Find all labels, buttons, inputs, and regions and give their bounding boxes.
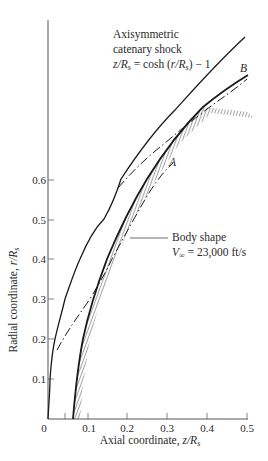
- axes: [48, 20, 248, 419]
- y-axis-label: Radial coordinate, r/Rs: [7, 247, 21, 352]
- y-tick-labels: 0.1 0.2 0.3 0.4 0.5 0.6: [32, 174, 46, 385]
- x-axis-label: Axial coordinate, z/Rs: [100, 434, 201, 448]
- y-tick-0.3: 0.3: [32, 293, 46, 305]
- y-tick-0.4: 0.4: [32, 253, 46, 265]
- svg-text:z/Rs = cosh (r/Rs) − 1: z/Rs = cosh (r/Rs) − 1: [112, 58, 211, 72]
- svg-text:V∞ = 23,000 ft/s: V∞ = 23,000 ft/s: [172, 246, 247, 260]
- x-ticks: [65, 413, 247, 419]
- y-tick-0.6: 0.6: [32, 174, 46, 186]
- x-tick-0.4: 0.4: [200, 422, 214, 434]
- body-annotation: Body shape V∞ = 23,000 ft/s: [172, 231, 247, 260]
- x-tick-0.5: 0.5: [240, 422, 254, 434]
- label-A: A: [168, 156, 177, 168]
- x-tick-0: 0: [41, 422, 47, 434]
- chart: 0 0.1 0.2 0.3 0.4 0.5 0.1 0.2 0.3 0.4 0.…: [0, 0, 268, 461]
- svg-text:catenary shock: catenary shock: [113, 43, 182, 56]
- x-tick-0.3: 0.3: [160, 422, 174, 434]
- x-tick-0.1: 0.1: [82, 422, 96, 434]
- svg-text:Body shape: Body shape: [172, 231, 226, 244]
- y-tick-0.5: 0.5: [32, 214, 46, 226]
- shock-annotation: Axisymmetric catenary shock z/Rs = cosh …: [112, 28, 211, 72]
- y-tick-0.1: 0.1: [32, 373, 46, 385]
- y-tick-0.2: 0.2: [32, 333, 46, 345]
- body-hatching: [60, 100, 260, 420]
- x-tick-0.2: 0.2: [120, 422, 134, 434]
- svg-text:Axisymmetric: Axisymmetric: [113, 28, 179, 41]
- label-B: B: [240, 62, 247, 74]
- x-tick-labels: 0 0.1 0.2 0.3 0.4 0.5: [41, 422, 254, 434]
- shock-curve: [48, 37, 245, 419]
